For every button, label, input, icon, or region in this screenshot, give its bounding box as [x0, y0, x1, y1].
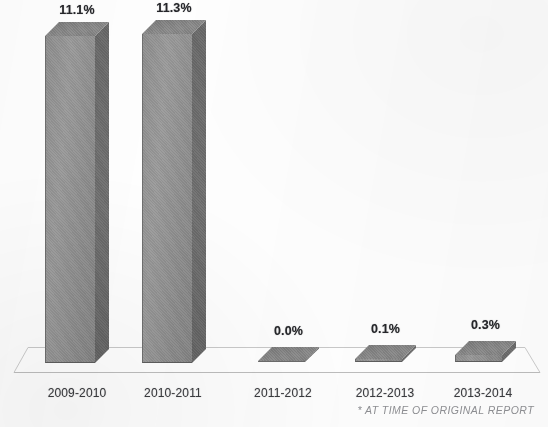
bar-side-face — [192, 20, 206, 363]
data-label-2011-2012: 0.0% — [258, 324, 319, 338]
data-label-2009-2010: 11.1% — [45, 3, 109, 17]
chart-footnote: * AT TIME OF ORIGINAL REPORT — [357, 404, 534, 416]
chart-plot-area: 11.1% 11.3% 0.0% 0.1% 0.3% — [0, 0, 548, 427]
bar-side-face — [95, 22, 109, 363]
x-axis-label-2013-2014: 2013-2014 — [428, 386, 538, 400]
x-axis-label-2012-2013: 2012-2013 — [330, 386, 440, 400]
bar-front-face — [142, 34, 192, 363]
bar-2013-2014 — [455, 341, 502, 362]
bar-front-face — [45, 36, 95, 363]
bar-front-face — [355, 359, 402, 362]
bar-2009-2010 — [45, 22, 95, 363]
data-label-2012-2013: 0.1% — [355, 322, 416, 336]
data-label-2013-2014: 0.3% — [455, 318, 516, 332]
bar-2012-2013 — [355, 345, 402, 362]
bar-2010-2011 — [142, 20, 192, 363]
x-axis-label-2009-2010: 2009-2010 — [22, 386, 132, 400]
bar-front-face — [455, 355, 502, 362]
x-axis-label-2011-2012: 2011-2012 — [228, 386, 338, 400]
chart-screenshot: 11.1% 11.3% 0.0% 0.1% 0.3% — [0, 0, 548, 427]
bar-front-face — [258, 361, 305, 362]
bar-2011-2012 — [258, 347, 305, 362]
data-label-2010-2011: 11.3% — [142, 1, 206, 15]
x-axis-label-2010-2011: 2010-2011 — [118, 386, 228, 400]
